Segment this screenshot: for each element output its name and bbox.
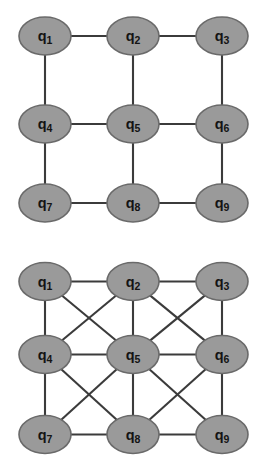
node-q1[interactable]: q1 <box>19 17 71 55</box>
node-q2[interactable]: q2 <box>107 263 159 301</box>
nodes-layer-top: q1q2q3q4q5q6q7q8q9 <box>19 17 248 222</box>
node-q5[interactable]: q5 <box>107 336 159 374</box>
nodes-layer-bottom: q1q2q3q4q5q6q7q8q9 <box>19 263 248 454</box>
node-q3[interactable]: q3 <box>196 263 248 301</box>
node-q4[interactable]: q4 <box>19 105 71 143</box>
graph-canvas-top: q1q2q3q4q5q6q7q8q9 <box>0 0 262 232</box>
node-q4[interactable]: q4 <box>19 336 71 374</box>
figure-page: q1q2q3q4q5q6q7q8q9 q1q2q3q4q5q6q7q8q9 <box>0 0 262 473</box>
node-q5[interactable]: q5 <box>107 105 159 143</box>
node-q8[interactable]: q8 <box>107 416 159 454</box>
node-q6[interactable]: q6 <box>196 105 248 143</box>
node-q6[interactable]: q6 <box>196 336 248 374</box>
node-q7[interactable]: q7 <box>19 184 71 222</box>
node-q7[interactable]: q7 <box>19 416 71 454</box>
node-q9[interactable]: q9 <box>196 416 248 454</box>
node-q8[interactable]: q8 <box>107 184 159 222</box>
node-q2[interactable]: q2 <box>107 17 159 55</box>
node-q3[interactable]: q3 <box>196 17 248 55</box>
graph-king-graph-lattice: q1q2q3q4q5q6q7q8q9 <box>0 236 262 473</box>
node-q9[interactable]: q9 <box>196 184 248 222</box>
graph-nearest-neighbour-lattice: q1q2q3q4q5q6q7q8q9 <box>0 0 262 232</box>
node-q1[interactable]: q1 <box>19 263 71 301</box>
graph-canvas-bottom: q1q2q3q4q5q6q7q8q9 <box>0 236 262 473</box>
